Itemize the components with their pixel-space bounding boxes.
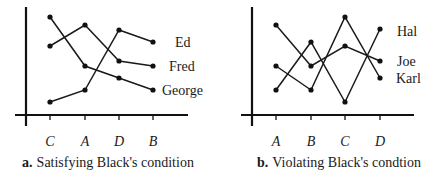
caption-a: a.Satisfying Black's condition (22, 155, 194, 170)
series-label-ed: Ed (175, 35, 191, 50)
tick-label: D (113, 134, 124, 149)
line-hal (276, 29, 380, 102)
line-ed (50, 30, 153, 102)
tick-label: D (374, 134, 385, 149)
series-label-george: George (162, 83, 203, 98)
data-points (273, 14, 382, 104)
line-george (50, 17, 153, 90)
figure: C A D B Ed Fred George a.Satisfying Blac… (0, 0, 435, 172)
tick-label: C (45, 134, 55, 149)
series-label-karl: Karl (396, 71, 421, 86)
panel-b: A B C D Hal Joe Karl b.Violating Black's… (241, 7, 421, 170)
tick-label: B (149, 134, 158, 149)
tick-label: A (271, 134, 281, 149)
caption-b: b.Violating Black's condtion (257, 155, 421, 170)
tick-label: A (80, 134, 90, 149)
series-label-joe: Joe (397, 54, 416, 69)
panel-a: C A D B Ed Fred George a.Satisfying Blac… (15, 7, 203, 170)
series-label-fred: Fred (169, 59, 195, 74)
tick-label: B (307, 134, 316, 149)
series-label-hal: Hal (397, 24, 417, 39)
tick-label: C (340, 134, 350, 149)
